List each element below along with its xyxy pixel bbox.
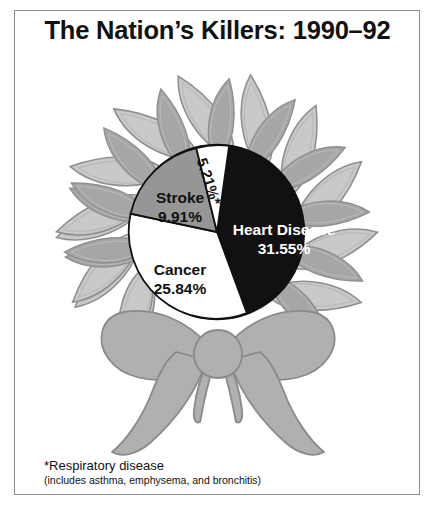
label-cancer-name: Cancer xyxy=(154,261,207,278)
footnote: *Respiratory disease (includes asthma, e… xyxy=(44,458,374,487)
bow-knot xyxy=(194,330,242,378)
ribbon-bow xyxy=(101,311,334,455)
label-cancer-value: 25.84% xyxy=(154,280,207,297)
footnote-line-2: (includes asthma, emphysema, and bronchi… xyxy=(44,474,374,487)
wreath-pie-illustration: Heart Disease 31.55% Cancer 25.84% Strok… xyxy=(0,0,435,516)
label-stroke-name: Stroke xyxy=(156,189,205,206)
footnote-line-1: *Respiratory disease xyxy=(44,458,374,473)
label-stroke-value: 9.91% xyxy=(158,208,202,225)
label-heart-disease-value: 31.55% xyxy=(258,240,311,257)
label-heart-disease-name: Heart Disease xyxy=(233,221,336,238)
